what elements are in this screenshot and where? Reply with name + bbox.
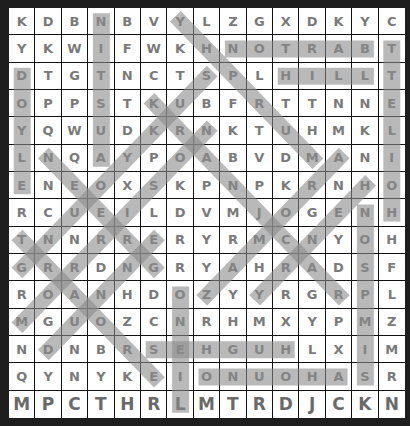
grid-cell[interactable]: S [141,172,167,199]
grid-cell[interactable]: S [141,336,167,363]
grid-cell[interactable]: K [273,172,299,199]
grid-cell[interactable]: D [273,391,299,418]
grid-cell[interactable]: H [299,363,325,390]
grid-cell[interactable]: Y [9,117,35,144]
grid-cell[interactable]: U [247,336,273,363]
grid-cell[interactable]: Y [352,8,378,35]
grid-cell[interactable]: T [379,63,405,90]
grid-cell[interactable]: R [299,35,325,62]
grid-cell[interactable]: K [167,172,193,199]
grid-cell[interactable]: M [326,117,352,144]
grid-cell[interactable]: W [141,35,167,62]
grid-cell[interactable]: R [167,254,193,281]
grid-cell[interactable]: R [167,227,193,254]
grid-cell[interactable]: C [326,391,352,418]
grid-cell[interactable]: N [220,172,246,199]
grid-cell[interactable]: T [220,391,246,418]
grid-cell[interactable]: I [115,199,141,226]
grid-cell[interactable]: L [352,63,378,90]
grid-cell[interactable]: P [352,281,378,308]
grid-cell[interactable]: E [167,336,193,363]
grid-cell[interactable]: E [62,172,88,199]
grid-cell[interactable]: Z [220,8,246,35]
grid-cell[interactable]: K [326,8,352,35]
grid-cell[interactable]: R [9,281,35,308]
grid-cell[interactable]: G [247,8,273,35]
grid-cell[interactable]: H [247,254,273,281]
grid-cell[interactable]: B [115,8,141,35]
grid-cell[interactable]: N [62,336,88,363]
grid-cell[interactable]: I [379,145,405,172]
grid-cell[interactable]: J [247,199,273,226]
grid-cell[interactable]: R [35,254,61,281]
grid-cell[interactable]: H [379,199,405,226]
grid-cell[interactable]: A [220,254,246,281]
grid-cell[interactable]: M [194,391,220,418]
grid-cell[interactable]: L [167,391,193,418]
grid-cell[interactable]: L [326,63,352,90]
grid-cell[interactable]: J [299,391,325,418]
grid-cell[interactable]: S [194,63,220,90]
grid-cell[interactable]: L [247,63,273,90]
grid-cell[interactable]: A [326,145,352,172]
grid-cell[interactable]: S [88,90,114,117]
grid-cell[interactable]: L [379,281,405,308]
grid-cell[interactable]: T [299,90,325,117]
grid-cell[interactable]: H [273,336,299,363]
grid-cell[interactable]: E [379,90,405,117]
grid-cell[interactable]: K [9,8,35,35]
grid-cell[interactable]: Y [194,227,220,254]
grid-cell[interactable]: D [273,145,299,172]
grid-cell[interactable]: X [326,336,352,363]
grid-cell[interactable]: N [88,281,114,308]
grid-cell[interactable]: M [220,199,246,226]
grid-cell[interactable]: S [352,254,378,281]
grid-cell[interactable]: N [62,227,88,254]
grid-cell[interactable]: C [141,309,167,336]
grid-cell[interactable]: A [299,254,325,281]
grid-cell[interactable]: P [35,90,61,117]
grid-cell[interactable]: R [273,281,299,308]
grid-cell[interactable]: G [299,199,325,226]
grid-cell[interactable]: U [62,199,88,226]
grid-cell[interactable]: V [247,145,273,172]
grid-cell[interactable]: E [88,199,114,226]
grid-cell[interactable]: B [220,145,246,172]
grid-cell[interactable]: B [194,90,220,117]
grid-cell[interactable]: B [62,8,88,35]
grid-cell[interactable]: Q [9,363,35,390]
grid-cell[interactable]: N [35,145,61,172]
grid-cell[interactable]: O [88,309,114,336]
grid-cell[interactable]: A [326,363,352,390]
grid-cell[interactable]: H [115,391,141,418]
grid-cell[interactable]: N [115,63,141,90]
grid-cell[interactable]: O [247,35,273,62]
grid-cell[interactable]: P [62,90,88,117]
grid-cell[interactable]: R [194,309,220,336]
grid-cell[interactable]: O [88,172,114,199]
grid-cell[interactable]: T [88,63,114,90]
grid-cell[interactable]: X [273,309,299,336]
grid-cell[interactable]: N [220,363,246,390]
grid-cell[interactable]: R [247,90,273,117]
grid-cell[interactable]: N [326,172,352,199]
grid-cell[interactable]: K [141,90,167,117]
grid-cell[interactable]: R [88,227,114,254]
grid-cell[interactable]: U [88,117,114,144]
grid-cell[interactable]: N [326,90,352,117]
grid-cell[interactable]: R [115,336,141,363]
grid-cell[interactable]: Y [299,309,325,336]
grid-cell[interactable]: T [115,90,141,117]
grid-cell[interactable]: N [379,391,405,418]
grid-cell[interactable]: L [194,8,220,35]
grid-cell[interactable]: Y [167,8,193,35]
grid-cell[interactable]: M [379,336,405,363]
grid-cell[interactable]: N [35,172,61,199]
grid-cell[interactable]: R [247,391,273,418]
grid-cell[interactable]: D [167,199,193,226]
grid-cell[interactable]: G [9,254,35,281]
grid-cell[interactable]: A [326,35,352,62]
grid-cell[interactable]: X [273,8,299,35]
grid-cell[interactable]: I [352,336,378,363]
grid-cell[interactable]: O [35,281,61,308]
